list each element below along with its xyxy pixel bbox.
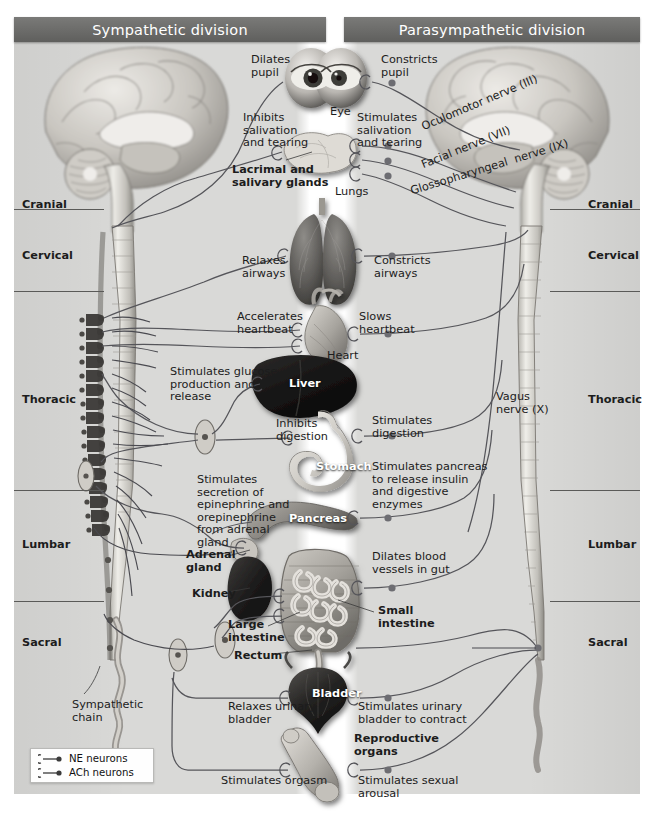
- rule-left-thoracic: [14, 490, 104, 491]
- rule-right-cervical: [550, 291, 640, 292]
- parasympathetic-effect-1: Stimulates salivation and tearing: [357, 112, 422, 150]
- rule-right-cranial: [550, 209, 640, 210]
- organ-label-reproductive-organs: Reproductive organs: [354, 733, 439, 758]
- parasympathetic-effect-8: Stimulates sexual arousal: [358, 775, 458, 800]
- legend-label-ach: ACh neurons: [69, 767, 134, 778]
- organ-label-lacrimal-and-salivary-glands: Lacrimal and salivary glands: [232, 164, 328, 189]
- rule-left-cervical: [14, 291, 104, 292]
- sympathetic-effect-3: Accelerates heartbeat: [237, 311, 303, 336]
- organ-label-sympathetic-chain: Sympathetic chain: [72, 699, 143, 724]
- organ-label-eye: Eye: [330, 106, 351, 119]
- ne-neuron-symbol: [38, 754, 64, 764]
- sympathetic-effect-2: Relaxes airways: [242, 255, 286, 280]
- organ-label-stomach: Stomach: [316, 461, 371, 474]
- legend-item-ach: ACh neurons: [38, 766, 134, 779]
- organ-label-kidney: Kidney: [192, 588, 236, 601]
- organ-label-small-intestine: Small intestine: [378, 605, 435, 630]
- pupil-constricted: [336, 75, 341, 80]
- sympathetic-effect-8: Stimulates orgasm: [221, 775, 327, 788]
- sympathetic-effect-4: Stimulates glucose production and releas…: [170, 366, 277, 404]
- eye-illustration: [285, 48, 367, 108]
- rule-left-cranial: [14, 209, 104, 210]
- spinal-label-left-lumbar: Lumbar: [22, 539, 70, 552]
- organ-label-lungs: Lungs: [335, 186, 368, 199]
- parasympathetic-effect-4: Stimulates digestion: [372, 415, 432, 440]
- legend-box: NE neurons ACh neurons: [30, 748, 154, 783]
- organ-label-rectum: Rectum: [234, 650, 282, 663]
- spinal-label-left-sacral: Sacral: [22, 637, 62, 650]
- brain-right-illustration: [426, 47, 609, 232]
- sympathetic-effect-0: Dilates pupil: [251, 54, 290, 79]
- parasympathetic-effect-5: Stimulates pancreas to release insulin a…: [372, 461, 487, 511]
- organ-label-liver: Liver: [289, 378, 321, 391]
- sympathetic-effect-5: Inhibits digestion: [276, 418, 328, 443]
- figure-canvas: Sympathetic division Parasympathetic div…: [0, 0, 654, 828]
- brain-left-illustration: [45, 47, 228, 232]
- ach-neuron-symbol: [38, 768, 64, 778]
- spinal-cord-right: [518, 226, 544, 770]
- spinal-label-left-thoracic: Thoracic: [22, 394, 76, 407]
- rule-right-lumbar: [550, 601, 640, 602]
- spinal-label-left-cervical: Cervical: [22, 250, 73, 263]
- intestines-illustration: [281, 549, 360, 674]
- sympathetic-chain: [79, 232, 113, 660]
- organ-label-large-intestine: Large intestine: [228, 619, 285, 644]
- parasympathetic-effect-7: Stimulates urinary bladder to contract: [358, 701, 467, 726]
- spinal-label-right-sacral: Sacral: [588, 637, 628, 650]
- organ-label-bladder: Bladder: [312, 688, 362, 701]
- parasympathetic-effect-2: Constricts airways: [374, 255, 431, 280]
- sympathetic-effect-7: Relaxes urinary bladder: [228, 701, 315, 726]
- spinal-label-right-cervical: Cervical: [588, 250, 639, 263]
- parasympathetic-effect-3: Slows heartbeat: [359, 311, 415, 336]
- legend-item-ne: NE neurons: [38, 752, 127, 765]
- sympathetic-effect-6: Stimulates secretion of epinephrine and …: [197, 474, 289, 550]
- organ-label-adrenal-gland: Adrenal gland: [186, 549, 236, 574]
- parasympathetic-effect-0: Constricts pupil: [381, 54, 438, 79]
- legend-label-ne: NE neurons: [69, 753, 127, 764]
- lungs-illustration: [290, 198, 357, 305]
- sympathetic-effect-1: Inhibits salivation and tearing: [243, 112, 308, 150]
- organ-label-heart: Heart: [327, 350, 358, 363]
- cranial-nerve-label-3: Vagus nerve (X): [496, 391, 549, 416]
- rule-left-lumbar: [14, 601, 104, 602]
- spinal-label-right-lumbar: Lumbar: [588, 539, 636, 552]
- spinal-label-right-thoracic: Thoracic: [588, 394, 642, 407]
- organ-label-pancreas: Pancreas: [289, 513, 347, 526]
- rule-right-thoracic: [550, 490, 640, 491]
- parasympathetic-effect-6: Dilates blood vessels in gut: [372, 551, 450, 576]
